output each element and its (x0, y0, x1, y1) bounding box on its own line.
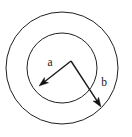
label-radius-b: b (101, 76, 107, 88)
label-radius-a: a (47, 56, 52, 68)
diagram-root: a b (0, 0, 132, 137)
radius-arrow-b-head (93, 97, 101, 107)
radius-arrow-a (39, 61, 71, 86)
concentric-circles-diagram: a b (0, 0, 132, 137)
radius-arrow-a-head (39, 77, 49, 86)
